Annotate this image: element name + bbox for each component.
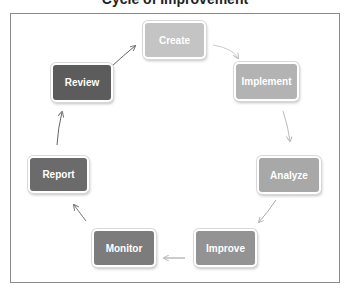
node-label: Implement [241,76,291,87]
node-report: Report [28,156,89,193]
node-label: Monitor [106,243,143,254]
node-implement: Implement [234,62,299,101]
arrow-review-create [112,46,135,66]
node-create: Create [143,21,206,59]
node-label: Review [65,77,99,88]
node-review: Review [51,63,113,102]
arrow-monitor-report [74,205,86,221]
node-monitor: Monitor [92,229,156,267]
node-label: Report [42,169,74,180]
node-label: Improve [206,243,245,254]
node-label: Create [159,35,190,46]
node-label: Analyze [270,170,308,181]
node-improve: Improve [194,229,257,267]
arrow-analyze-improve [259,200,276,222]
node-analyze: Analyze [257,156,321,194]
arrow-implement-analyze [283,111,290,141]
arrow-report-review [57,112,62,145]
arrow-create-implement [213,45,238,58]
